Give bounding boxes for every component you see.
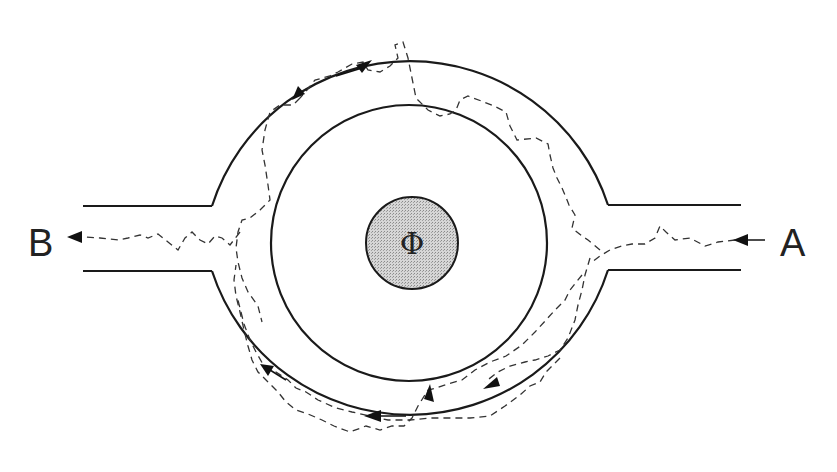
arrow-icon-from-a: [733, 234, 748, 246]
outer-ring-bottom: [212, 270, 608, 415]
aharonov-bohm-ring-diagram: Φ B A: [0, 0, 837, 472]
arrow-icon-top-left: [292, 86, 305, 100]
arrow-icon-top-right: [356, 60, 372, 73]
terminal-a-label: A: [780, 222, 806, 264]
arrow-icon-bottom-left: [260, 364, 274, 376]
outer-ring: [212, 61, 608, 206]
arrow-icon-to-b: [67, 231, 82, 243]
right-lead: [608, 205, 741, 270]
arrow-icon-bottom-right: [483, 377, 500, 389]
flux-symbol: Φ: [400, 226, 425, 261]
arrow-icon-bottom-up: [424, 384, 434, 402]
terminal-b-label: B: [28, 222, 53, 264]
